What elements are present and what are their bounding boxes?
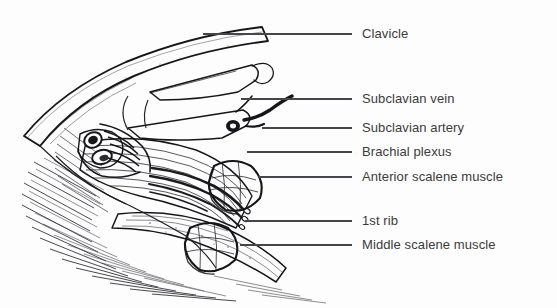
label-middle-scalene-muscle: Middle scalene muscle — [362, 237, 496, 252]
label-subclavian-vein: Subclavian vein — [362, 91, 455, 106]
label-brachial-plexus: Brachial plexus — [362, 144, 452, 159]
anatomy-illustration: Clavicle Subclavian vein Subclavian arte… — [0, 0, 557, 308]
label-subclavian-artery: Subclavian artery — [362, 120, 465, 135]
label-first-rib: 1st rib — [362, 213, 398, 228]
label-anterior-scalene-muscle: Anterior scalene muscle — [362, 169, 503, 184]
anatomy-figure: Clavicle Subclavian vein Subclavian arte… — [0, 0, 557, 308]
label-clavicle: Clavicle — [362, 26, 408, 41]
